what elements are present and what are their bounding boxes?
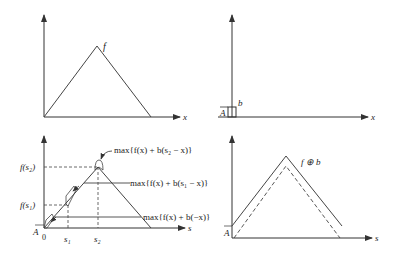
annotation-max-s1: max{f(x) + b(s₁ − x)} [130, 178, 208, 188]
f-s2-label: f(s₂) [20, 162, 35, 172]
b-label: b [238, 98, 243, 108]
x-axis-label: s [375, 233, 379, 243]
annotation-max-s2: max{f(x) + b(s₂ − x)} [114, 145, 192, 155]
arrow-s2 [101, 151, 112, 159]
panel-dilation-construction: f(s₂) f(s₁) A 0 s₁ s₂ s max{f(x) + b(s₂ … [20, 136, 210, 244]
f-s1-label: f(s₁) [20, 200, 35, 210]
dilated-curve [232, 156, 342, 226]
panel-structuring-b: b A x [218, 15, 375, 122]
A-label: A [223, 228, 230, 238]
function-f-curve [44, 46, 151, 117]
panel-function-f: f x [44, 15, 187, 122]
x-axis-label: x [370, 112, 375, 122]
annotation-max-zero: max{f(x) + b(−x)} [143, 212, 210, 222]
panel-dilation-result: f ⊕ b A s [223, 136, 379, 243]
probe-at-s1 [66, 186, 76, 206]
A-label: A [219, 108, 226, 118]
function-f-curve [44, 167, 151, 228]
f-label: f [103, 41, 107, 52]
dilation-diagram: f x b A x f(s₂) f(s₁) A [0, 0, 394, 260]
s2-tick-label: s₂ [94, 234, 101, 244]
s1-tick-label: s₁ [64, 234, 71, 244]
zero-tick-label: 0 [42, 233, 46, 242]
x-axis-label: s [188, 223, 192, 233]
A-label: A [32, 227, 39, 237]
x-axis-label: x [182, 112, 187, 122]
dilation-label: f ⊕ b [301, 157, 321, 167]
